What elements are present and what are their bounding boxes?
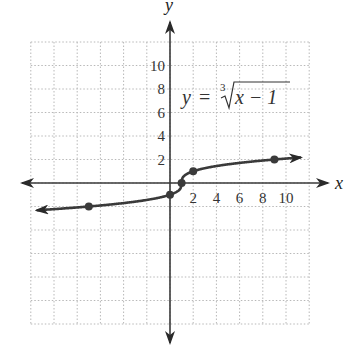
y-axis-label: y: [163, 0, 173, 15]
y-tick-label: 4: [158, 128, 166, 144]
x-tick-label: 10: [279, 190, 294, 206]
x-tick-label: 6: [236, 190, 244, 206]
data-point: [85, 203, 93, 211]
equation-equals: =: [199, 86, 210, 108]
cube-root-graph: 246810246810 y x y = 3 x − 1: [0, 0, 344, 346]
x-tick-label: 2: [189, 190, 197, 206]
data-point: [178, 179, 186, 187]
data-point: [270, 156, 278, 164]
y-tick-label: 8: [158, 81, 166, 97]
x-axis-label: x: [334, 173, 343, 193]
axes: [22, 22, 328, 343]
data-point: [166, 191, 174, 199]
equation-lhs: y: [180, 86, 191, 109]
radical-index: 3: [220, 81, 226, 93]
y-tick-label: 10: [150, 58, 165, 74]
data-point: [189, 167, 197, 175]
equation-label: y = 3 x − 1: [180, 81, 290, 109]
y-tick-label: 6: [158, 105, 166, 121]
equation-radicand: x − 1: [234, 86, 277, 108]
x-tick-label: 4: [213, 190, 221, 206]
y-tick-label: 2: [158, 152, 166, 168]
x-tick-label: 8: [259, 190, 267, 206]
curve-right-branch: [182, 157, 301, 183]
